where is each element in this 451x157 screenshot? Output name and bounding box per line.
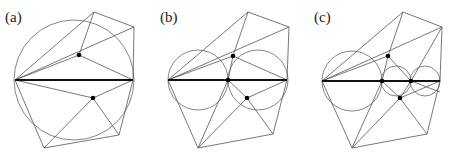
- triangle-edge: [248, 12, 289, 27]
- triangle-edge: [247, 80, 287, 98]
- triangle-edge: [273, 80, 287, 134]
- triangle-edge: [403, 12, 442, 27]
- panel-b: (b): [160, 9, 289, 148]
- triangle-edge: [322, 56, 388, 81]
- triangle-edge: [388, 56, 411, 81]
- panel-label: (c): [314, 9, 331, 26]
- panel-label: (a): [5, 9, 22, 26]
- panel-label: (b): [160, 9, 178, 26]
- triangle-edge: [168, 56, 233, 80]
- triangle-edge: [228, 80, 247, 98]
- triangle-edge: [93, 80, 133, 98]
- panel-c: (c): [314, 9, 442, 148]
- triangle-edge: [352, 81, 382, 148]
- triangle-edge: [427, 81, 440, 134]
- triangle-edge: [15, 80, 93, 98]
- triangle-edge: [440, 27, 442, 81]
- triangle-edge: [287, 27, 289, 80]
- triangle-edge: [228, 56, 233, 80]
- triangle-edge: [94, 12, 134, 27]
- triangle-edge: [168, 80, 198, 148]
- vertex-dot: [226, 78, 231, 83]
- triangle-edge: [198, 80, 228, 148]
- vertex-dot: [77, 53, 82, 58]
- vertex-dot: [245, 96, 250, 101]
- triangle-edge: [247, 98, 273, 134]
- triangle-edge: [168, 27, 289, 80]
- vertex-dot: [386, 54, 391, 59]
- triangle-edge: [322, 27, 442, 81]
- triangulation-diagram: (a) (b) (c): [0, 0, 451, 157]
- vertex-dot: [231, 54, 236, 59]
- triangle-edge: [79, 55, 133, 80]
- vertex-dot: [409, 79, 414, 84]
- panel-a: (a): [5, 9, 134, 148]
- triangle-edge: [15, 80, 44, 148]
- vertex-dot: [91, 96, 96, 101]
- vertex-dot: [398, 96, 403, 101]
- triangle-edge: [233, 56, 287, 80]
- triangle-edge: [322, 81, 352, 148]
- triangle-edge: [400, 98, 427, 134]
- triangle-edge: [15, 55, 79, 80]
- triangle-edge: [93, 98, 119, 135]
- vertex-dot: [380, 79, 385, 84]
- triangle-edge: [119, 80, 133, 135]
